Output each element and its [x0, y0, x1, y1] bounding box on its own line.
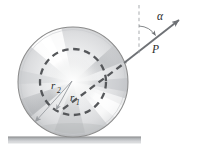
radius-r1-subscript: 1 [76, 98, 80, 107]
force-p-label: P [151, 43, 159, 55]
wheel-disc [18, 12, 130, 145]
radius-r2-label: r [51, 79, 56, 91]
figure-canvas: α P r 2 r 1 [0, 0, 198, 155]
angle-alpha-arc [139, 26, 156, 36]
radius-r1-label: r [70, 91, 75, 103]
radius-r2-subscript: 2 [57, 86, 61, 95]
angle-alpha-label: α [157, 10, 164, 22]
mechanics-figure: α P r 2 r 1 [0, 0, 198, 155]
